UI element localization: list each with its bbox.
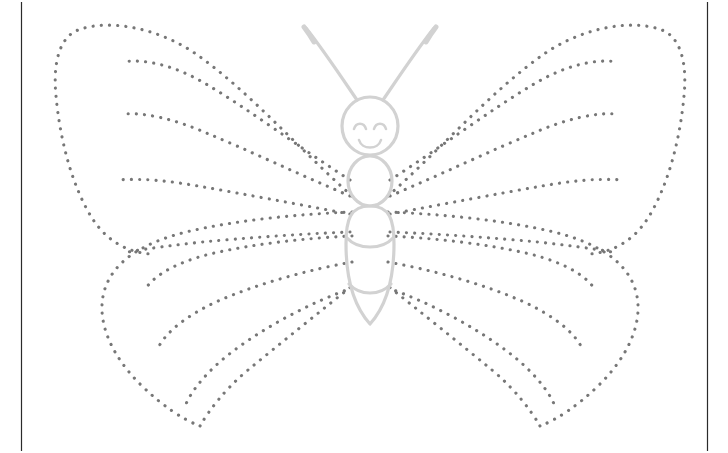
abdomen: [346, 206, 394, 324]
thorax: [348, 156, 392, 206]
face: [354, 124, 386, 148]
page-frame: [22, 2, 708, 451]
worksheet-page: [0, 0, 728, 453]
abdomen-segment-divider-1: [347, 238, 393, 247]
right-lower-wing: [388, 212, 638, 426]
butterfly-tracing-canvas: [0, 0, 728, 453]
smile-icon: [359, 140, 381, 148]
right-eye-icon: [374, 124, 386, 129]
left-lower-wing-outline: [102, 212, 352, 426]
right-upper-wing-vein-3: [390, 179, 622, 214]
abdomen-segment-divider-2: [349, 284, 391, 293]
left-upper-wing-vein-2: [122, 114, 350, 196]
butterfly-body: [342, 97, 398, 324]
right-upper-wing-vein-2: [390, 114, 618, 196]
left-upper-wing-vein-3: [118, 179, 350, 214]
right-upper-wing: [388, 25, 685, 254]
right-lower-wing-outline: [388, 212, 638, 426]
left-lower-wing: [102, 212, 352, 426]
right-upper-wing-outline: [388, 25, 685, 254]
left-eye-icon: [354, 124, 366, 129]
left-upper-wing-outline: [55, 25, 352, 254]
left-upper-wing: [55, 25, 352, 254]
antennae: [304, 27, 436, 100]
